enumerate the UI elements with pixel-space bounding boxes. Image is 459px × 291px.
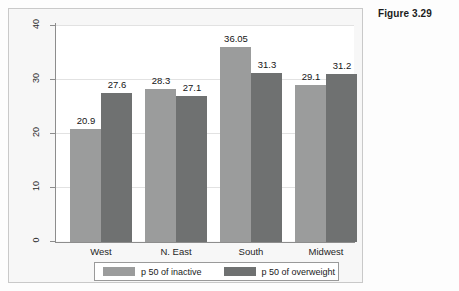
bar-midwest-inactive[interactable]: [295, 85, 326, 242]
x-axis-line: [55, 242, 355, 243]
bar-value-neast-overweight: 27.1: [170, 82, 214, 93]
bar-south-overweight[interactable]: [251, 73, 282, 242]
figure-page: Figure 3.29 40 30 20 10 0: [0, 0, 459, 291]
y-tick-label-0-wrap: 0: [25, 235, 47, 247]
x-label-west: West: [71, 246, 131, 257]
bar-west-inactive[interactable]: [70, 129, 101, 242]
y-tick-label-30-wrap: 30: [25, 73, 47, 85]
y-tick-mark-0: [50, 241, 55, 242]
bar-value-south-overweight: 31.3: [245, 59, 289, 70]
y-tick-label-10: 10: [31, 175, 41, 197]
legend-label-overweight: p 50 of overweight: [262, 267, 336, 277]
legend-swatch-inactive: [103, 267, 135, 276]
y-tick-label-20: 20: [31, 121, 41, 143]
legend-entry-overweight[interactable]: p 50 of overweight: [216, 263, 336, 280]
bar-neast-overweight[interactable]: [176, 96, 207, 242]
bar-value-south-inactive: 36.05: [212, 33, 260, 44]
y-tick-label-20-wrap: 20: [25, 127, 47, 139]
x-label-midwest: Midwest: [296, 246, 356, 257]
legend-label-inactive: p 50 of inactive: [141, 267, 202, 277]
legend-swatch-overweight: [224, 267, 256, 276]
y-tick-label-30: 30: [31, 67, 41, 89]
x-label-neast: N. East: [146, 246, 206, 257]
y-tick-label-10-wrap: 10: [25, 181, 47, 193]
y-tick-mark-40: [50, 25, 55, 26]
y-axis-line: [55, 23, 56, 243]
chart-legend: p 50 of inactive p 50 of overweight: [94, 262, 339, 281]
gridline-40: [56, 25, 354, 26]
figure-caption: Figure 3.29: [378, 8, 432, 19]
y-tick-mark-20: [50, 133, 55, 134]
y-tick-label-40-wrap: 40: [25, 19, 47, 31]
bar-west-overweight[interactable]: [101, 93, 132, 242]
chart-frame: 40 30 20 10 0 20.9 27.6 West 28.3 27.1 N…: [8, 8, 363, 283]
y-tick-mark-10: [50, 187, 55, 188]
y-tick-label-40: 40: [31, 13, 41, 35]
legend-entry-inactive[interactable]: p 50 of inactive: [95, 263, 202, 280]
y-tick-mark-30: [50, 79, 55, 80]
y-tick-label-0: 0: [31, 229, 41, 251]
bar-neast-inactive[interactable]: [145, 89, 176, 242]
bar-value-midwest-overweight: 31.2: [320, 60, 364, 71]
x-label-south: South: [221, 246, 281, 257]
bar-midwest-overweight[interactable]: [326, 74, 357, 242]
bar-south-inactive[interactable]: [220, 47, 251, 242]
bar-value-west-overweight: 27.6: [95, 79, 139, 90]
